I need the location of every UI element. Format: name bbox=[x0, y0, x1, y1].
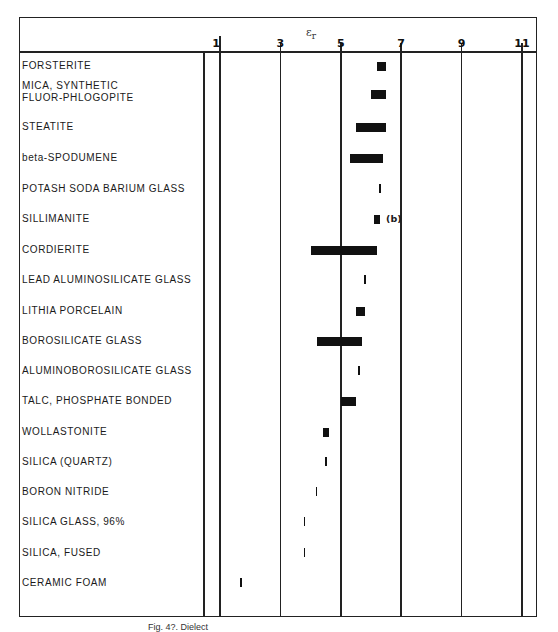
tick-label-7: 7 bbox=[397, 37, 405, 50]
row-label: WOLLASTONITE bbox=[22, 426, 107, 438]
gridline-7 bbox=[400, 43, 402, 617]
range-marker bbox=[304, 548, 306, 557]
range-bar bbox=[350, 154, 383, 163]
figure-caption: Fig. 4?. Dielect bbox=[148, 622, 208, 632]
annotation-note: (b) bbox=[386, 213, 401, 224]
gridline-5 bbox=[340, 43, 342, 617]
row-label: SILICA GLASS, 96% bbox=[22, 516, 125, 528]
row-label: POTASH SODA BARIUM GLASS bbox=[22, 183, 185, 195]
header-divider bbox=[19, 51, 537, 53]
range-bar bbox=[377, 62, 386, 71]
row-label: STEATITE bbox=[22, 121, 74, 133]
row-label: LEAD ALUMINOSILICATE GLASS bbox=[22, 274, 191, 286]
gridline-1 bbox=[219, 36, 221, 617]
range-bar bbox=[356, 307, 365, 316]
label-column-divider bbox=[203, 51, 205, 617]
range-bar bbox=[317, 337, 362, 346]
range-marker bbox=[379, 184, 381, 193]
range-marker bbox=[304, 517, 306, 526]
gridline-11 bbox=[521, 43, 523, 617]
range-marker bbox=[325, 457, 327, 466]
row-label: CORDIERITE bbox=[22, 244, 90, 256]
row-label: TALC, PHOSPHATE BONDED bbox=[22, 395, 172, 407]
gridline-9 bbox=[461, 43, 463, 617]
range-marker bbox=[240, 578, 242, 587]
row-label: SILLIMANITE bbox=[22, 213, 90, 225]
tick-label-1: 1 bbox=[212, 37, 220, 50]
range-bar bbox=[356, 123, 386, 132]
range-bar bbox=[323, 428, 329, 437]
row-label: SILICA, FUSED bbox=[22, 547, 101, 559]
range-marker bbox=[358, 366, 360, 375]
range-bar bbox=[341, 397, 356, 406]
axis-title: εr bbox=[306, 26, 316, 41]
row-label: BORON NITRIDE bbox=[22, 486, 109, 498]
tick-label-11: 11 bbox=[514, 37, 529, 50]
range-bar bbox=[374, 215, 380, 224]
row-label: beta-SPODUMENE bbox=[22, 152, 118, 164]
row-label: LITHIA PORCELAIN bbox=[22, 305, 123, 317]
row-label: SILICA (QUARTZ) bbox=[22, 456, 113, 468]
row-label: MICA, SYNTHETIC FLUOR-PHLOGOPITE bbox=[22, 80, 134, 104]
range-marker bbox=[316, 487, 318, 496]
row-label: FORSTERITE bbox=[22, 60, 91, 72]
tick-label-3: 3 bbox=[277, 37, 285, 50]
row-label: ALUMINOBOROSILICATE GLASS bbox=[22, 365, 192, 377]
tick-label-5: 5 bbox=[337, 37, 345, 50]
tick-label-9: 9 bbox=[458, 37, 466, 50]
gridline-3 bbox=[280, 43, 282, 617]
range-bar bbox=[311, 246, 377, 255]
row-label: BOROSILICATE GLASS bbox=[22, 335, 142, 347]
range-marker bbox=[364, 275, 366, 284]
row-label: CERAMIC FOAM bbox=[22, 577, 107, 589]
axis-title-subscript: r bbox=[312, 31, 316, 41]
range-bar bbox=[371, 90, 386, 99]
